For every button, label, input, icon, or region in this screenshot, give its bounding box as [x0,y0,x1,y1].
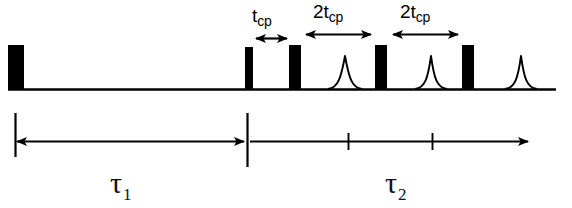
tau1-label-sub: 1 [122,185,132,204]
cp-pulse-1 [245,47,253,89]
tau1-label: τ1 [110,168,132,203]
two-tcp-label-2-sub: cp [416,9,430,25]
cp-pulse-2 [289,45,301,89]
echo-2 [415,56,447,89]
tcp-label-sub: cp [257,13,271,29]
cp-pulse-4 [462,45,474,89]
two-tcp-label-2-base: 2t [400,1,416,22]
tau2-label-sub: 2 [397,185,407,204]
two-tcp-label-2: 2tcp [400,2,430,24]
tau1-label-base: τ [110,166,122,199]
tau2-label: τ2 [385,168,407,203]
two-tcp-label-1: 2tcp [313,2,343,24]
pulse-sequence-figure: tcp 2tcp 2tcp τ1 τ2 [0,0,572,208]
echo-1 [328,56,362,89]
two-tcp-label-1-sub: cp [329,9,343,25]
tau2-label-base: τ [385,166,397,199]
two-tcp-label-1-base: 2t [313,1,329,22]
figure-canvas [0,0,572,208]
excitation-pulse [8,45,24,89]
tcp-label: tcp [252,6,271,28]
cp-pulse-3 [375,45,387,89]
echo-3 [505,56,537,89]
